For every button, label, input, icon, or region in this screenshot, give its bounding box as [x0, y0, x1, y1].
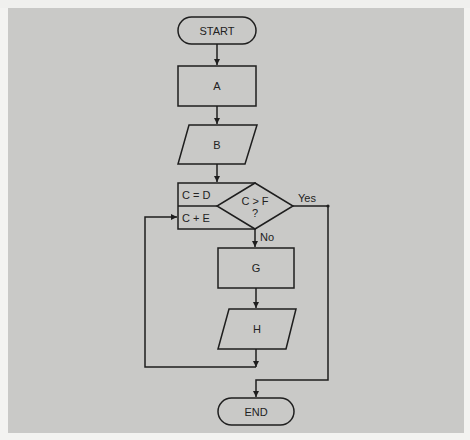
yes-label: Yes — [298, 191, 326, 205]
flowchart-canvas — [0, 0, 470, 440]
edge-loop-back — [145, 217, 256, 367]
a-label: A — [178, 79, 256, 93]
g-label: G — [218, 261, 294, 275]
init-label: C = D — [182, 188, 222, 202]
decision-label-line2: ? — [225, 206, 285, 220]
b-label: B — [178, 138, 256, 152]
incr-label: C + E — [182, 211, 222, 225]
no-label: No — [260, 230, 288, 244]
end-label: END — [218, 405, 294, 419]
start-label: START — [178, 24, 256, 38]
h-label: H — [218, 322, 296, 336]
